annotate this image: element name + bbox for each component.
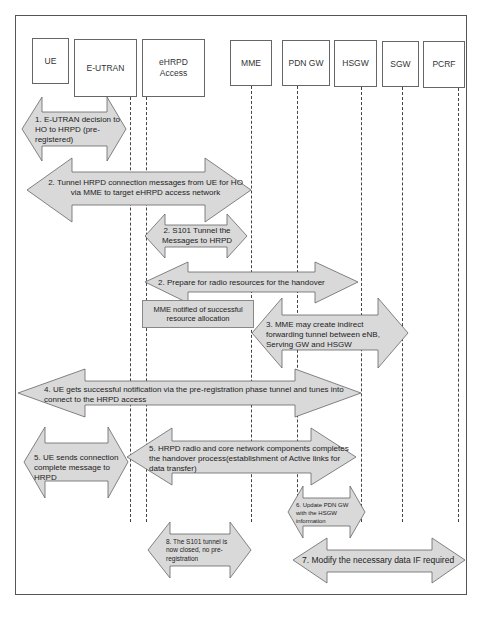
step-7-label: 7. Modify the necessary data IF required xyxy=(302,555,472,566)
step-6-label: 6. Update PDN GW with the HSGW informati… xyxy=(296,502,359,525)
step-5a-label: 5. UE sends connection complete message … xyxy=(34,453,124,483)
step-2c-label: 2. Prepare for radio resources for the h… xyxy=(158,278,358,288)
step-5b-label: 5. HRPD radio and core network component… xyxy=(149,444,349,474)
step-3-label: 3. MME may create indirect forwarding tu… xyxy=(266,320,396,350)
step-2a-label: 2. Tunnel HRPD connection messages from … xyxy=(43,178,248,198)
note-mme-notified: MME notified of successful resource allo… xyxy=(142,300,254,328)
step-2b-label: 2. S101 Tunnel the Messages to HRPD xyxy=(156,226,238,246)
step-4-label: 4. UE gets successful notification via t… xyxy=(44,385,344,405)
step-1-label: 1. E-UTRAN decision to HO to HRPD (pre-r… xyxy=(35,115,125,145)
note-text: MME notified of successful resource allo… xyxy=(143,305,253,324)
step-8-label: 8. The S101 tunnel is now closed, no pre… xyxy=(166,538,236,563)
